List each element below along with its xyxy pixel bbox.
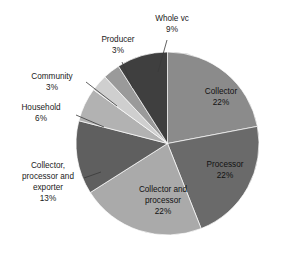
label-collector-name: Collector xyxy=(205,87,238,96)
label-cpe-line3: exporter xyxy=(33,183,63,192)
label-processor-name: Processor xyxy=(207,160,244,169)
label-household-percent: 6% xyxy=(35,114,47,123)
label-community-percent: 3% xyxy=(46,83,58,92)
label-household-name: Household xyxy=(21,103,61,112)
label-collector-and-processor-line1: Collector and xyxy=(139,185,188,194)
label-producer-percent: 3% xyxy=(112,46,124,55)
label-community-name: Community xyxy=(31,72,73,81)
label-processor-percent: 22% xyxy=(217,171,233,180)
label-cpe-line1: Collector, xyxy=(31,161,65,170)
label-cpe-line2: processor and xyxy=(22,172,74,181)
pie-chart-svg: Collector 22% Processor 22% Collector an… xyxy=(0,0,286,254)
label-whole-vc-name: Whole vc xyxy=(155,14,189,23)
pie-chart-figure: Collector 22% Processor 22% Collector an… xyxy=(0,0,286,254)
label-whole-vc-percent: 9% xyxy=(166,25,178,34)
label-producer-name: Producer xyxy=(101,35,134,44)
label-collector-and-processor-line2: processor xyxy=(145,196,181,205)
label-collector-percent: 22% xyxy=(213,98,229,107)
label-collector-and-processor-percent: 22% xyxy=(155,207,171,216)
label-cpe-percent: 13% xyxy=(40,194,56,203)
